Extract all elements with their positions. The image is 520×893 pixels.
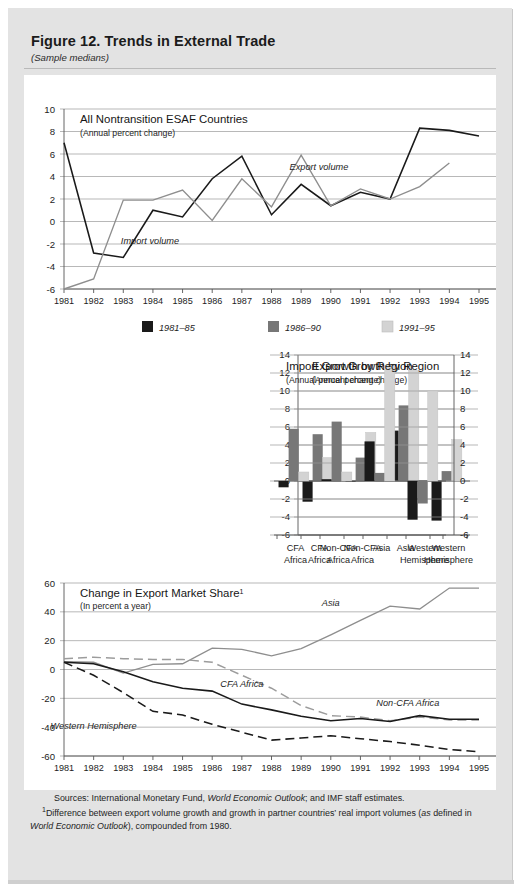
svg-text:1991–95: 1991–95	[399, 323, 436, 333]
svg-text:1990: 1990	[321, 296, 341, 306]
svg-text:6: 6	[50, 149, 55, 160]
svg-text:1988: 1988	[261, 763, 281, 773]
svg-text:1985: 1985	[172, 296, 192, 306]
svg-text:20: 20	[44, 635, 55, 646]
svg-text:8: 8	[460, 403, 465, 414]
svg-text:1981: 1981	[54, 763, 74, 773]
svg-text:14: 14	[460, 349, 471, 360]
svg-text:1993: 1993	[410, 296, 430, 306]
svg-text:Non-CFA Africa: Non-CFA Africa	[376, 698, 439, 708]
sources-label: Sources:	[54, 793, 89, 803]
chart-import-growth-by-region: 14121086420-2-4-6CFAAfricaNon-CFAAfricaA…	[256, 347, 496, 567]
svg-text:(Annual percent change): (Annual percent change)	[286, 375, 381, 385]
svg-text:Africa: Africa	[327, 555, 351, 565]
svg-text:(Annual percent change): (Annual percent change)	[80, 128, 175, 138]
svg-text:1986–90: 1986–90	[285, 323, 322, 333]
svg-text:1990: 1990	[321, 763, 341, 773]
footnote-italic-as: as	[421, 808, 430, 818]
sources-text-a: International Monetary Fund,	[92, 793, 205, 803]
footnote-italic-weo: World Economic Outlook	[30, 821, 128, 831]
footnotes: Sources: International Monetary Fund, Wo…	[24, 792, 496, 833]
svg-text:60: 60	[44, 578, 55, 589]
svg-text:Asia: Asia	[321, 598, 340, 608]
svg-text:1982: 1982	[84, 296, 104, 306]
svg-text:(In percent a year): (In percent a year)	[80, 601, 151, 611]
svg-text:-4: -4	[46, 261, 55, 272]
svg-text:1981: 1981	[54, 296, 74, 306]
svg-text:-20: -20	[41, 693, 55, 704]
chart-canvas: 1086420-2-4-6198119821983198419851986198…	[24, 75, 496, 790]
chart-a-svg: 1086420-2-4-6198119821983198419851986198…	[24, 97, 496, 315]
svg-text:1981–85: 1981–85	[159, 323, 196, 333]
svg-text:1991: 1991	[350, 296, 370, 306]
svg-text:1991: 1991	[350, 763, 370, 773]
svg-text:1989: 1989	[291, 296, 311, 306]
svg-text:Hemisphere: Hemisphere	[400, 555, 449, 565]
svg-text:CFA: CFA	[287, 543, 306, 553]
svg-text:Export volume: Export volume	[290, 162, 349, 172]
sources-italic-weo: World Economic Outlook	[207, 793, 305, 803]
svg-text:1995: 1995	[469, 763, 489, 773]
svg-text:1984: 1984	[143, 763, 163, 773]
svg-text:1985: 1985	[172, 763, 192, 773]
svg-text:1986: 1986	[202, 763, 222, 773]
svg-text:1983: 1983	[113, 763, 133, 773]
svg-text:4: 4	[460, 439, 466, 450]
svg-text:Western: Western	[408, 543, 442, 553]
svg-text:1987: 1987	[232, 296, 252, 306]
footnote-text-c: ), compounded from 1980.	[128, 821, 232, 831]
svg-text:-2: -2	[460, 493, 469, 504]
footnote-text-a: Difference between export volume growth …	[46, 808, 421, 818]
svg-text:Western Hemisphere: Western Hemisphere	[51, 721, 137, 731]
svg-text:-6: -6	[460, 529, 469, 540]
chart-c-svg: 14121086420-2-4-6CFAAfricaNon-CFAAfricaA…	[256, 347, 496, 567]
svg-text:All Nontransition ESAF Countri: All Nontransition ESAF Countries	[80, 113, 248, 125]
svg-text:-4: -4	[460, 511, 469, 522]
svg-text:1994: 1994	[439, 296, 459, 306]
header-divider	[24, 68, 496, 69]
svg-text:-6: -6	[46, 284, 55, 295]
svg-text:CFA Africa: CFA Africa	[220, 679, 263, 689]
svg-text:Non-CFA: Non-CFA	[320, 543, 358, 553]
svg-text:12: 12	[460, 367, 471, 378]
chart-b-svg	[24, 347, 260, 567]
chart-export-growth-by-region	[24, 347, 260, 567]
svg-text:1988: 1988	[261, 296, 281, 306]
sources-text-b: ; and IMF staff estimates.	[305, 793, 404, 803]
svg-text:Asia: Asia	[373, 543, 392, 553]
page-title: Figure 12. Trends in External Trade	[31, 33, 275, 49]
svg-text:4: 4	[50, 171, 56, 182]
svg-text:0: 0	[50, 664, 55, 675]
svg-text:1989: 1989	[291, 763, 311, 773]
note-sources: Sources: International Monetary Fund, Wo…	[54, 792, 496, 805]
svg-text:1992: 1992	[380, 296, 400, 306]
chart-all-nontransition-esaf: 1086420-2-4-6198119821983198419851986198…	[24, 97, 496, 315]
svg-text:1993: 1993	[410, 763, 430, 773]
svg-text:1983: 1983	[113, 296, 133, 306]
svg-text:1984: 1984	[143, 296, 163, 306]
note-footnote-1: 1Difference between export volume growth…	[30, 805, 496, 833]
chart-d-svg: 6040200-20-40-60198119821983198419851986…	[24, 573, 496, 788]
svg-text:-60: -60	[41, 751, 55, 762]
svg-text:10: 10	[44, 104, 55, 115]
svg-text:10: 10	[460, 385, 471, 396]
figure-page: Figure 12. Trends in External Trade (Sam…	[0, 0, 520, 893]
series-legend: 1981–851986–901991–95	[24, 318, 496, 340]
svg-text:1994: 1994	[439, 763, 459, 773]
svg-text:0: 0	[460, 475, 465, 486]
svg-text:2: 2	[460, 457, 465, 468]
svg-text:1992: 1992	[380, 763, 400, 773]
svg-text:Africa: Africa	[351, 555, 375, 565]
svg-text:Change in Export Market Share1: Change in Export Market Share1	[80, 587, 244, 599]
svg-text:8: 8	[50, 126, 55, 137]
svg-text:Import Growth by Region: Import Growth by Region	[286, 360, 413, 372]
svg-text:1986: 1986	[202, 296, 222, 306]
page-subtitle: (Sample medians)	[31, 52, 109, 63]
svg-text:Import volume: Import volume	[121, 236, 179, 246]
svg-text:Africa: Africa	[284, 555, 308, 565]
svg-text:1982: 1982	[84, 763, 104, 773]
svg-text:2: 2	[50, 194, 55, 205]
page-panel-shadow	[8, 880, 514, 884]
footnote-text-b: defined in	[433, 808, 472, 818]
svg-text:-2: -2	[46, 239, 55, 250]
